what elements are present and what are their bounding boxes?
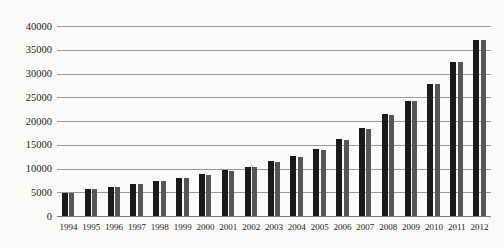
x-axis-line [57,216,491,217]
gridline-25000 [57,97,491,98]
bar-black-2009 [405,101,411,216]
bar-gray-2012 [481,40,486,216]
chart-plot-area: 0500010000150002000025000300003500040000… [0,0,504,247]
bar-gray-1997 [138,184,143,216]
x-tick-label-2012: 2012 [466,222,494,232]
y-tick-label-20000: 20000 [0,116,52,127]
bar-gray-2004 [298,157,303,216]
bar-black-1998 [153,181,159,216]
bar-black-1996 [108,187,114,216]
bar-gray-2010 [435,84,440,216]
bar-gray-2007 [366,129,371,216]
bar-gray-2001 [229,171,234,216]
bar-gray-1995 [92,189,97,216]
bar-black-2007 [359,128,365,216]
y-tick-label-25000: 25000 [0,92,52,103]
bar-black-2005 [313,149,319,216]
bar-black-1995 [85,189,91,216]
y-tick-label-0: 0 [0,211,52,222]
bar-black-2001 [222,170,228,216]
y-tick-label-5000: 5000 [0,187,52,198]
bar-black-1994 [62,193,68,216]
bar-black-2008 [382,114,388,216]
bar-gray-2008 [389,115,394,216]
y-tick-label-35000: 35000 [0,44,52,55]
bar-black-1997 [130,184,136,216]
gridline-40000 [57,26,491,27]
bar-black-2012 [473,40,479,216]
bar-gray-1996 [115,187,120,216]
bar-black-2010 [427,84,433,216]
bar-black-2003 [268,161,274,216]
gridline-30000 [57,74,491,75]
y-tick-label-30000: 30000 [0,68,52,79]
gridline-5000 [57,192,491,193]
bar-gray-2003 [275,162,280,216]
bar-black-2004 [290,156,296,216]
bar-gray-2002 [252,167,257,216]
bar-chart: 0500010000150002000025000300003500040000… [0,0,504,247]
y-tick-label-10000: 10000 [0,163,52,174]
gridline-35000 [57,50,491,51]
gridline-20000 [57,121,491,122]
bar-gray-1994 [69,193,74,216]
bar-gray-2000 [206,175,211,216]
bar-black-2000 [199,174,205,216]
y-tick-label-40000: 40000 [0,21,52,32]
gridline-10000 [57,169,491,170]
bar-black-2002 [245,167,251,216]
bar-black-2011 [450,62,456,216]
gridline-15000 [57,145,491,146]
bar-gray-1998 [161,181,166,216]
bar-gray-2006 [344,140,349,216]
bar-gray-2009 [412,101,417,216]
y-tick-label-15000: 15000 [0,139,52,150]
bar-gray-1999 [184,178,189,216]
bar-gray-2005 [321,150,326,216]
bar-black-2006 [336,139,342,216]
bar-gray-2011 [458,62,463,216]
bar-black-1999 [176,178,182,216]
